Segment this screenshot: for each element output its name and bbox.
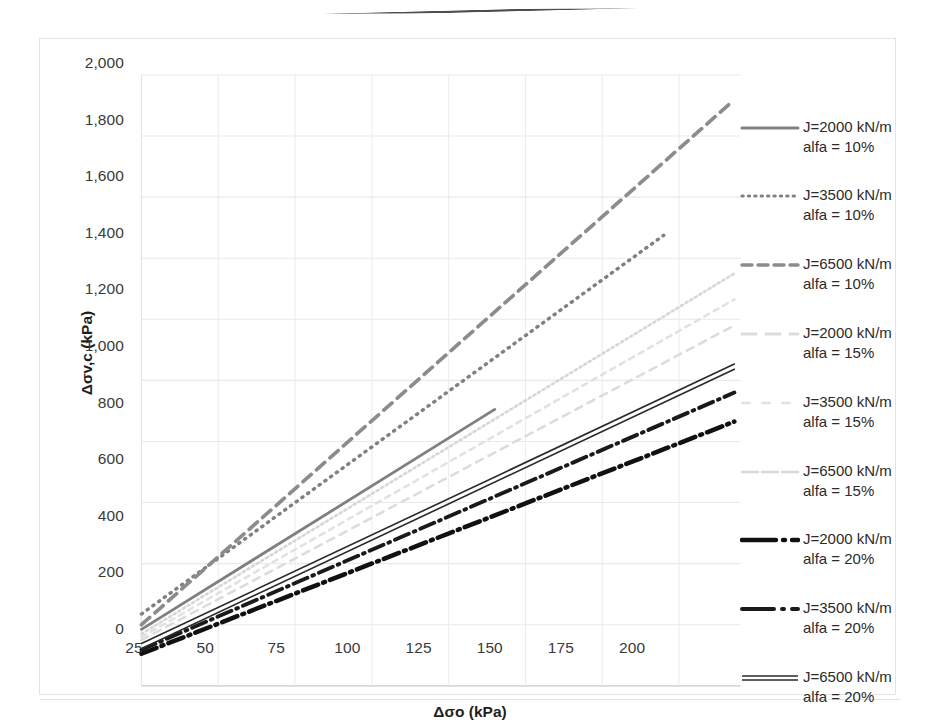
series-line (141, 299, 734, 637)
legend-key-icon (740, 530, 800, 550)
legend-item-label: J=3500 kN/m alfa = 20% (803, 598, 892, 637)
legend-item-label: J=6500 kN/m alfa = 10% (803, 254, 892, 293)
legend-key-icon (740, 186, 800, 206)
legend-item-label: J=2000 kN/m alfa = 10% (803, 117, 892, 156)
legend-item-label: J=3500 kN/m alfa = 15% (803, 392, 892, 431)
legend-item[interactable]: J=3500 kN/m alfa = 20% (740, 598, 925, 646)
legend-item[interactable]: J=3500 kN/m alfa = 15% (740, 392, 925, 440)
series-line (141, 325, 734, 640)
legend-key-icon (740, 599, 800, 619)
legend-item-label: J=2000 kN/m alfa = 20% (803, 529, 892, 568)
legend-item[interactable]: J=6500 kN/m alfa = 10% (740, 254, 925, 302)
chart-legend: J=2000 kN/m alfa = 10%J=3500 kN/m alfa =… (740, 99, 925, 719)
legend-key-icon (740, 118, 800, 138)
legend-key-icon (740, 393, 800, 413)
series-line (141, 393, 734, 650)
legend-item-label: J=6500 kN/m alfa = 20% (803, 667, 892, 706)
legend-item-label: J=3500 kN/m alfa = 10% (803, 185, 892, 224)
legend-item[interactable]: J=6500 kN/m alfa = 20% (740, 667, 925, 715)
scan-artifact-rule-top (0, 7, 925, 15)
series-line (141, 273, 734, 633)
legend-item[interactable]: J=2000 kN/m alfa = 15% (740, 323, 925, 371)
legend-item[interactable]: J=6500 kN/m alfa = 15% (740, 461, 925, 509)
legend-item[interactable]: J=2000 kN/m alfa = 20% (740, 529, 925, 577)
legend-item[interactable]: J=3500 kN/m alfa = 10% (740, 185, 925, 233)
series-line (141, 364, 734, 649)
legend-key-icon (740, 668, 800, 688)
legend-item-label: J=2000 kN/m alfa = 15% (803, 323, 892, 362)
legend-item[interactable]: J=2000 kN/m alfa = 10% (740, 117, 925, 165)
legend-item-label: J=6500 kN/m alfa = 15% (803, 461, 892, 500)
series-line (141, 235, 663, 614)
series-line (141, 102, 731, 624)
legend-key-icon (740, 324, 800, 344)
legend-key-icon (740, 462, 800, 482)
chart-frame: Δσv,c (kPa) Δσo (kPa) 02004006008001,000… (39, 38, 896, 695)
series-line (141, 422, 734, 654)
legend-key-icon (740, 255, 800, 275)
